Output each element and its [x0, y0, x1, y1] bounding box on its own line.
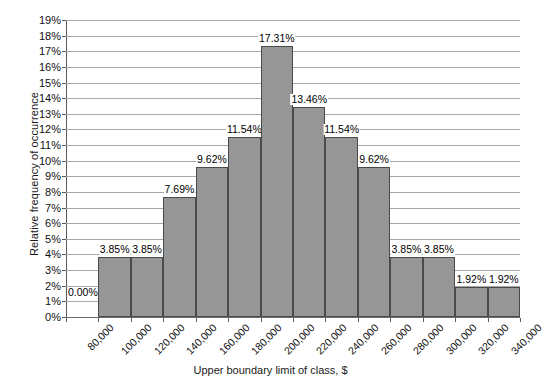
gridline — [66, 83, 520, 84]
histogram-bar — [98, 257, 130, 317]
y-tick-label: 16% — [39, 61, 61, 72]
y-tick-mark — [62, 301, 66, 302]
y-tick-mark — [62, 129, 66, 130]
y-tick-label: 9% — [45, 171, 61, 182]
x-tick-label: 200,000 — [282, 322, 317, 357]
histogram-bar — [163, 197, 195, 317]
y-tick-label: 13% — [39, 108, 61, 119]
x-tick-mark — [261, 318, 262, 322]
x-tick-label: 100,000 — [120, 322, 155, 357]
histogram-bar — [455, 287, 487, 317]
y-tick-label: 17% — [39, 46, 61, 57]
histogram-bar — [325, 137, 357, 317]
y-tick-mark — [62, 286, 66, 287]
y-tick-mark — [62, 239, 66, 240]
x-tick-label: 280,000 — [411, 322, 446, 357]
histogram-bar — [390, 257, 422, 317]
y-tick-label: 0% — [45, 312, 61, 323]
y-tick-label: 3% — [45, 265, 61, 276]
x-tick-mark — [228, 318, 229, 322]
y-tick-label: 12% — [39, 124, 61, 135]
bar-value-label: 0.00% — [67, 287, 99, 298]
bar-value-label: 1.92% — [488, 274, 520, 285]
histogram-bar — [261, 46, 293, 317]
bar-value-label: 3.85% — [391, 244, 423, 255]
y-tick-label: 19% — [39, 15, 61, 26]
y-tick-mark — [62, 208, 66, 209]
gridline — [66, 51, 520, 52]
histogram-bar — [488, 287, 520, 317]
gridline — [66, 67, 520, 68]
y-tick-mark — [62, 254, 66, 255]
x-tick-label: 180,000 — [249, 322, 284, 357]
bar-value-label: 11.54% — [226, 124, 263, 135]
bar-value-label: 11.54% — [323, 124, 360, 135]
x-tick-mark — [325, 318, 326, 322]
x-tick-label: 80,000 — [85, 322, 115, 352]
y-tick-label: 11% — [40, 140, 61, 151]
bar-value-label: 9.62% — [358, 154, 390, 165]
x-tick-mark — [196, 318, 197, 322]
x-tick-label: 160,000 — [217, 322, 252, 357]
x-tick-mark — [98, 318, 99, 322]
plot-inner: 0.00%3.85%3.85%7.69%9.62%11.54%17.31%13.… — [66, 20, 520, 317]
x-tick-mark — [293, 318, 294, 322]
y-tick-label: 1% — [45, 296, 61, 307]
y-tick-label: 7% — [45, 202, 61, 213]
bar-value-label: 1.92% — [455, 274, 487, 285]
x-tick-mark — [455, 318, 456, 322]
x-tick-label: 240,000 — [347, 322, 382, 357]
x-tick-label: 320,000 — [476, 322, 511, 357]
x-tick-label: 120,000 — [152, 322, 187, 357]
y-tick-mark — [62, 83, 66, 84]
x-axis-title: Upper boundary limit of class, $ — [0, 364, 541, 376]
y-tick-label: 14% — [39, 93, 61, 104]
y-tick-mark — [62, 98, 66, 99]
bar-value-label: 9.62% — [196, 154, 228, 165]
y-tick-mark — [62, 270, 66, 271]
y-tick-label: 4% — [45, 249, 61, 260]
x-tick-mark — [358, 318, 359, 322]
bar-value-label: 13.46% — [290, 94, 328, 105]
histogram-bar — [358, 167, 390, 317]
bar-value-label: 3.85% — [423, 244, 455, 255]
x-tick-mark — [66, 318, 67, 322]
x-tick-mark — [423, 318, 424, 322]
y-tick-mark — [62, 20, 66, 21]
y-tick-mark — [62, 161, 66, 162]
y-tick-mark — [62, 51, 66, 52]
y-tick-mark — [62, 114, 66, 115]
histogram-bar — [293, 107, 325, 317]
x-tick-label: 220,000 — [314, 322, 349, 357]
y-tick-label: 8% — [45, 186, 61, 197]
y-tick-label: 18% — [39, 30, 61, 41]
y-tick-mark — [62, 145, 66, 146]
y-tick-mark — [62, 223, 66, 224]
y-tick-label: 15% — [39, 77, 61, 88]
bar-value-label: 7.69% — [164, 184, 196, 195]
y-tick-label: 5% — [45, 233, 61, 244]
x-tick-mark — [520, 318, 521, 322]
x-tick-label: 140,000 — [184, 322, 219, 357]
x-tick-mark — [131, 318, 132, 322]
bar-value-label: 3.85% — [99, 244, 131, 255]
y-tick-label: 10% — [39, 155, 61, 166]
y-tick-mark — [62, 67, 66, 68]
histogram-bar — [131, 257, 163, 317]
histogram-bar — [423, 257, 455, 317]
bar-value-label: 3.85% — [131, 244, 163, 255]
y-tick-label: 2% — [45, 280, 61, 291]
x-tick-mark — [488, 318, 489, 322]
x-tick-label: 300,000 — [444, 322, 479, 357]
histogram-bar — [228, 137, 260, 317]
bar-value-label: 17.31% — [258, 33, 296, 44]
x-tick-label: 340,000 — [509, 322, 543, 357]
gridline — [66, 20, 520, 21]
x-tick-label: 260,000 — [379, 322, 414, 357]
x-tick-mark — [163, 318, 164, 322]
plot-area: 0.00%3.85%3.85%7.69%9.62%11.54%17.31%13.… — [66, 20, 520, 317]
y-tick-mark — [62, 36, 66, 37]
y-tick-label: 6% — [45, 218, 61, 229]
x-tick-mark — [390, 318, 391, 322]
